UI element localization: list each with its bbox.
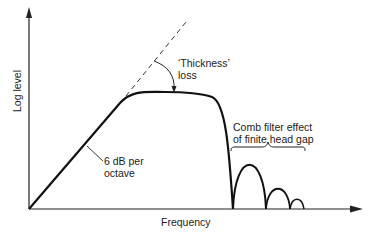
- thickness-arc: [154, 61, 174, 89]
- comb-annotation-line1: Comb filter effect: [233, 121, 312, 133]
- comb-lobe-1: [233, 165, 266, 209]
- frequency-response-diagram: Log level Frequency 6 dB per octave ‘Thi…: [0, 0, 371, 235]
- slope-annotation-line2: octave: [104, 167, 135, 179]
- y-axis-arrow-icon: [26, 7, 32, 18]
- comb-annotation-line2: of finite head gap: [233, 133, 314, 145]
- diagram-canvas: [0, 0, 371, 235]
- slope-leader-line: [87, 146, 103, 161]
- slope-annotation-line1: 6 dB per: [104, 155, 144, 167]
- comb-lobe-3: [290, 199, 304, 209]
- x-axis-label: Frequency: [161, 216, 211, 228]
- thickness-annotation-line1: ‘Thickness’: [178, 57, 230, 69]
- response-curve: [29, 92, 233, 209]
- y-axis-label: Log level: [11, 70, 23, 112]
- x-axis-arrow-icon: [350, 206, 363, 213]
- comb-lobe-2: [266, 189, 290, 209]
- thickness-annotation-line2: loss: [178, 69, 197, 81]
- ideal-slope-dashed-line: [126, 22, 186, 96]
